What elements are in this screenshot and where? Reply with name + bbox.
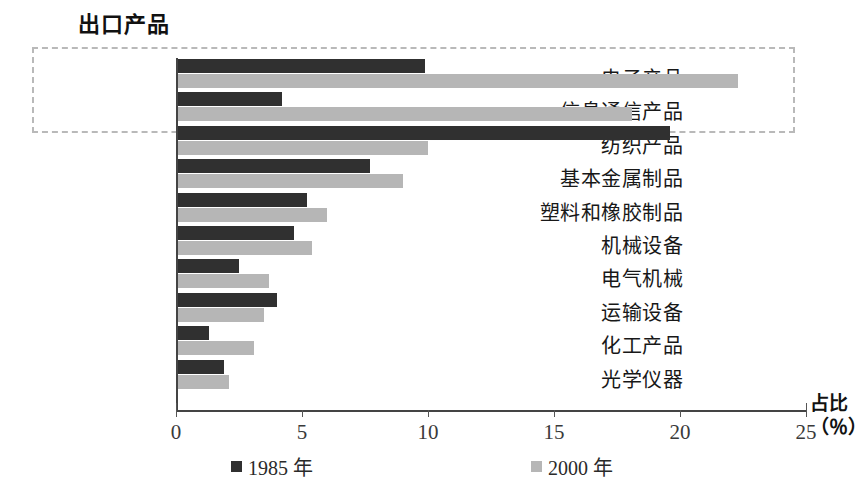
x-tick-15 — [554, 410, 555, 417]
legend-item-2000: 2000 年 — [531, 452, 613, 481]
x-tick-label-15: 15 — [544, 420, 565, 445]
axis-title-percent-unit: （％） — [810, 412, 865, 439]
x-tick-label-0: 0 — [171, 420, 182, 445]
axis-title-percent-label: 占比 — [810, 388, 848, 415]
x-axis-cap — [176, 403, 177, 411]
legend-label-1985: 1985 年 — [248, 452, 313, 481]
x-tick-label-5: 5 — [297, 420, 308, 445]
legend-swatch-icon-1985 — [231, 461, 242, 472]
plot-area: 0510152025 — [176, 58, 806, 410]
x-axis-cap — [806, 403, 807, 411]
y-axis-line — [176, 58, 178, 410]
x-tick-label-10: 10 — [418, 420, 439, 445]
x-tick-10 — [428, 410, 429, 417]
x-tick-20 — [680, 410, 681, 417]
legend-label-2000: 2000 年 — [548, 452, 613, 481]
x-axis-line — [176, 410, 806, 412]
chart-legend: 1985 年 2000 年 — [0, 452, 865, 482]
legend-item-1985: 1985 年 — [231, 452, 313, 481]
x-tick-25 — [806, 410, 807, 417]
chart-canvas: 出口产品 电子产品信息通信产品纺织产品基本金属制品塑料和橡胶制品机械设备电气机械… — [0, 0, 865, 497]
x-tick-label-20: 20 — [670, 420, 691, 445]
legend-swatch-icon-2000 — [531, 461, 542, 472]
page-title: 出口产品 — [78, 6, 170, 38]
x-tick-5 — [302, 410, 303, 417]
x-tick-0 — [176, 410, 177, 417]
